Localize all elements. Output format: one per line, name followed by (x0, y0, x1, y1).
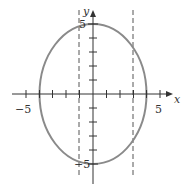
x-tick-label-neg5: −5 (15, 103, 31, 116)
x-axis-label: x (174, 93, 181, 106)
x-axis-arrow-icon (166, 91, 173, 97)
x-tick-label-5: 5 (155, 103, 162, 116)
y-axis-label: y (82, 5, 90, 18)
y-tick-label-neg5: −5 (74, 158, 90, 171)
y-axis-arrow-icon (90, 10, 96, 17)
y-tick-label-5: 5 (79, 18, 86, 31)
ellipse-chart: x y −5 5 5 −5 (0, 0, 183, 191)
